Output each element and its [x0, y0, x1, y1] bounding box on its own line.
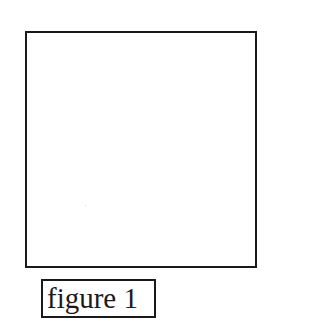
figure-frame [25, 31, 257, 268]
stray-dot [85, 205, 86, 206]
figure-caption: figure 1 [41, 279, 156, 318]
